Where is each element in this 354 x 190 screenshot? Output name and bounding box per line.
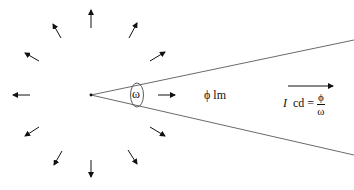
arrow-icon (53, 24, 61, 38)
intensity-fraction: ϕ ω (317, 92, 325, 117)
radiating-arrows (13, 10, 175, 177)
intensity-formula: I cd = ϕ ω (283, 92, 325, 117)
arrow-icon (129, 23, 137, 38)
arrow-icon (25, 53, 39, 61)
flux-label: ϕ lm (204, 89, 226, 101)
point-source (90, 94, 93, 97)
arrow-icon (128, 150, 137, 164)
arrow-icon (25, 127, 39, 136)
intensity-symbol: I (283, 96, 287, 110)
cone-upper-edge (91, 40, 354, 95)
luminous-intensity-diagram: ω ϕ lm I cd = ϕ ω (0, 0, 354, 190)
arrow-icon (54, 151, 62, 165)
fraction-denominator: ω (317, 105, 324, 117)
intensity-unit: cd = (293, 96, 314, 110)
solid-angle-label: ω (132, 88, 140, 100)
fraction-numerator: ϕ (317, 92, 325, 105)
arrow-icon (150, 127, 165, 136)
arrow-icon (150, 52, 165, 61)
